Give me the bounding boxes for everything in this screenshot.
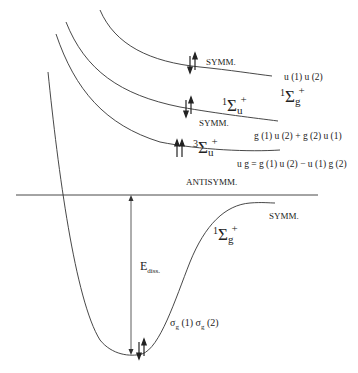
spin-parallel-icon [175, 140, 184, 157]
wavefunction-ug-minus: u g = g (1) u (2) − u (1) g (2) [237, 160, 347, 170]
wavefunction-uu: u (1) u (2) [284, 73, 323, 83]
symmetry-label-middle: SYMM. [199, 119, 229, 128]
term-symbol-3su: 3Σu+ [193, 139, 218, 158]
symmetry-label-top: SYMM. [206, 58, 236, 67]
symmetry-label-ground: SYMM. [269, 212, 299, 221]
curve-upper-1sg [100, 10, 272, 76]
wavefunction-gu-plus: g (1) u (2) + g (2) u (1) [254, 132, 342, 142]
orbital-product-label: σg (1) σg (2) [170, 318, 219, 331]
spin-pair-icon [188, 53, 197, 73]
term-symbol-1sg-top: 1Σg+ [280, 88, 305, 107]
dissociation-energy-label: Ediss. [140, 260, 160, 275]
spin-pair-icon [137, 339, 146, 359]
term-symbol-1sg-ground: 1Σg+ [213, 226, 238, 245]
arrowhead-up-icon [129, 195, 134, 201]
spin-pair-icon [184, 97, 193, 117]
arrowhead-down-icon [129, 349, 134, 355]
term-symbol-1su: 1Σu+ [222, 97, 247, 116]
antisymmetric-label: ANTISYMM. [186, 178, 237, 187]
